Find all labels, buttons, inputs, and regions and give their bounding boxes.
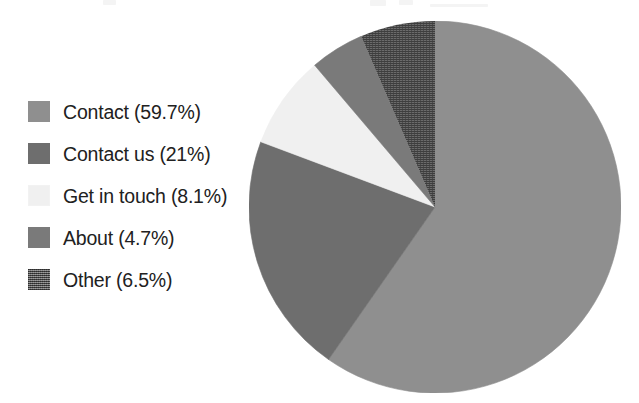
legend-label-contact-us: Contact us (21%) [63, 143, 210, 165]
legend-label-get-in-touch: Get in touch (8.1%) [63, 185, 227, 207]
legend-item-get-in-touch: Get in touch (8.1%) [28, 183, 243, 208]
legend-item-about: About (4.7%) [28, 225, 243, 250]
legend-item-contact: Contact (59.7%) [28, 99, 243, 124]
scan-artifact-top-bleed [0, 0, 639, 10]
pie-slices-group [249, 21, 621, 393]
legend-swatch-contact-us [28, 143, 50, 164]
pie-chart-figure: Contact (59.7%) Contact us (21%) Get in … [0, 0, 639, 403]
legend-swatch-get-in-touch [28, 185, 50, 206]
legend-label-contact: Contact (59.7%) [63, 101, 201, 123]
legend-swatch-contact [28, 101, 50, 122]
pie-svg [249, 21, 621, 393]
chart-legend: Contact (59.7%) Contact us (21%) Get in … [28, 99, 243, 292]
legend-label-about: About (4.7%) [63, 227, 174, 249]
legend-label-other: Other (6.5%) [63, 269, 172, 291]
legend-item-other: Other (6.5%) [28, 267, 243, 292]
legend-swatch-other [28, 269, 50, 290]
legend-swatch-about [28, 227, 50, 248]
legend-item-contact-us: Contact us (21%) [28, 141, 243, 166]
pie-chart-plot [249, 21, 621, 393]
